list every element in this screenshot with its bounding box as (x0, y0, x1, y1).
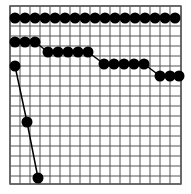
data-point-marker (80, 13, 91, 24)
data-point-marker (90, 13, 101, 24)
data-point-marker (22, 117, 33, 128)
data-point-marker (100, 13, 111, 24)
data-point-marker (30, 13, 41, 24)
data-point-marker (73, 47, 84, 58)
data-point-marker (174, 71, 185, 82)
data-point-marker (50, 13, 61, 24)
data-point-marker (60, 13, 71, 24)
data-point-marker (43, 47, 54, 58)
data-point-marker (150, 13, 161, 24)
axis-box (10, 6, 181, 184)
plot-canvas (0, 0, 191, 194)
chart-figure (0, 0, 191, 194)
data-point-marker (33, 173, 44, 184)
series-markers (10, 13, 185, 184)
data-point-marker (70, 13, 81, 24)
data-point-marker (63, 47, 74, 58)
data-point-marker (120, 13, 131, 24)
data-point-marker (109, 59, 120, 70)
data-point-marker (10, 61, 21, 72)
data-point-marker (20, 37, 31, 48)
data-point-marker (99, 59, 110, 70)
data-point-marker (110, 13, 121, 24)
data-point-marker (130, 13, 141, 24)
data-point-marker (10, 37, 21, 48)
data-point-marker (160, 13, 171, 24)
data-point-marker (83, 47, 94, 58)
data-point-marker (30, 37, 41, 48)
grid-lines (10, 6, 181, 184)
data-point-marker (119, 59, 130, 70)
data-point-marker (40, 13, 51, 24)
data-point-marker (155, 71, 166, 82)
data-point-marker (20, 13, 31, 24)
data-point-marker (139, 59, 150, 70)
data-point-marker (10, 13, 21, 24)
data-point-marker (53, 47, 64, 58)
data-point-marker (170, 13, 181, 24)
data-point-marker (140, 13, 151, 24)
data-point-marker (129, 59, 140, 70)
